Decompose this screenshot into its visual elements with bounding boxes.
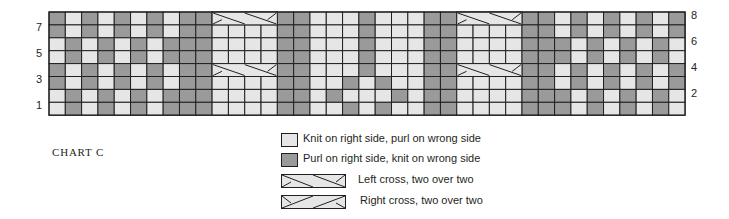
chart-cell — [277, 12, 293, 25]
chart-cell — [571, 102, 587, 115]
chart-cell — [131, 77, 147, 90]
chart-cell — [555, 12, 571, 25]
chart-cell — [82, 38, 98, 51]
chart-cell — [359, 64, 375, 77]
chart-cell — [163, 51, 179, 64]
chart-cell — [555, 102, 571, 115]
chart-cell — [212, 38, 228, 51]
chart-cell — [343, 51, 359, 64]
chart-cell — [49, 25, 65, 38]
chart-cell — [392, 64, 408, 77]
chart-cell — [163, 64, 179, 77]
chart-cell — [669, 12, 685, 25]
chart-cell — [310, 77, 326, 90]
chart-cell — [636, 51, 652, 64]
chart-cell — [261, 38, 277, 51]
chart-cell — [114, 102, 130, 115]
legend-label: Right cross, two over two — [360, 194, 483, 206]
row-label-1: 1 — [36, 99, 42, 111]
chart-cell — [114, 64, 130, 77]
chart-cell — [375, 89, 391, 102]
chart-cell — [147, 38, 163, 51]
chart-cell — [359, 25, 375, 38]
chart-cell — [408, 51, 424, 64]
row-label-5: 5 — [36, 47, 42, 59]
chart-cell — [163, 77, 179, 90]
chart-cell — [343, 102, 359, 115]
chart-cell — [424, 38, 440, 51]
chart-cell — [669, 64, 685, 77]
chart-cell — [636, 12, 652, 25]
chart-cell — [147, 51, 163, 64]
chart-cell — [620, 12, 636, 25]
chart-cell — [212, 89, 228, 102]
chart-cell — [489, 38, 505, 51]
chart-cell — [82, 51, 98, 64]
chart-cell — [98, 77, 114, 90]
chart-cell — [424, 89, 440, 102]
chart-cell — [65, 89, 81, 102]
legend-label: Knit on right side, purl on wrong side — [303, 132, 481, 144]
chart-cell — [506, 89, 522, 102]
chart-cell — [163, 102, 179, 115]
chart-cell — [326, 25, 342, 38]
chart-cell — [179, 102, 195, 115]
chart-cell — [196, 12, 212, 25]
chart-cell — [652, 51, 668, 64]
chart-cell — [636, 64, 652, 77]
cable-cross-icon — [212, 12, 277, 25]
chart-cell — [179, 51, 195, 64]
chart-cell — [440, 51, 456, 64]
chart-cell — [310, 12, 326, 25]
chart-cell — [489, 77, 505, 90]
chart-cell — [587, 64, 603, 77]
chart-cell — [261, 102, 277, 115]
chart-cell — [408, 38, 424, 51]
row-label-3: 3 — [36, 73, 42, 85]
chart-cell — [440, 12, 456, 25]
chart-cell — [359, 38, 375, 51]
chart-cell — [114, 51, 130, 64]
chart-cell — [473, 25, 489, 38]
chart-cell — [294, 12, 310, 25]
chart-cell — [277, 51, 293, 64]
chart-cell — [49, 12, 65, 25]
chart-cell — [294, 77, 310, 90]
chart-cell — [65, 51, 81, 64]
chart-cell — [82, 102, 98, 115]
chart-cell — [82, 25, 98, 38]
chart-cell — [375, 12, 391, 25]
chart-cell — [652, 12, 668, 25]
chart-cell — [424, 64, 440, 77]
chart-cell — [343, 25, 359, 38]
chart-cell — [522, 12, 538, 25]
chart-cell — [326, 51, 342, 64]
chart-cell — [65, 64, 81, 77]
chart-cell — [375, 38, 391, 51]
chart-cell — [98, 51, 114, 64]
chart-cell — [538, 12, 554, 25]
chart-cell — [522, 25, 538, 38]
chart-cell — [538, 25, 554, 38]
chart-cell — [457, 102, 473, 115]
chart-cell — [473, 102, 489, 115]
chart-cell — [82, 77, 98, 90]
chart-cell — [440, 77, 456, 90]
chart-cell — [538, 89, 554, 102]
chart-cell — [457, 77, 473, 90]
chart-cell — [620, 89, 636, 102]
chart-cell — [620, 77, 636, 90]
chart-cell — [571, 64, 587, 77]
chart-cell — [587, 12, 603, 25]
chart-cell — [294, 25, 310, 38]
chart-cell — [506, 38, 522, 51]
chart-cell — [277, 64, 293, 77]
chart-cell — [131, 38, 147, 51]
chart-cell — [620, 38, 636, 51]
chart-cell — [196, 38, 212, 51]
chart-cell — [669, 77, 685, 90]
chart-cell — [587, 51, 603, 64]
chart-cell — [196, 89, 212, 102]
chart-cell — [131, 12, 147, 25]
chart-cell — [65, 12, 81, 25]
